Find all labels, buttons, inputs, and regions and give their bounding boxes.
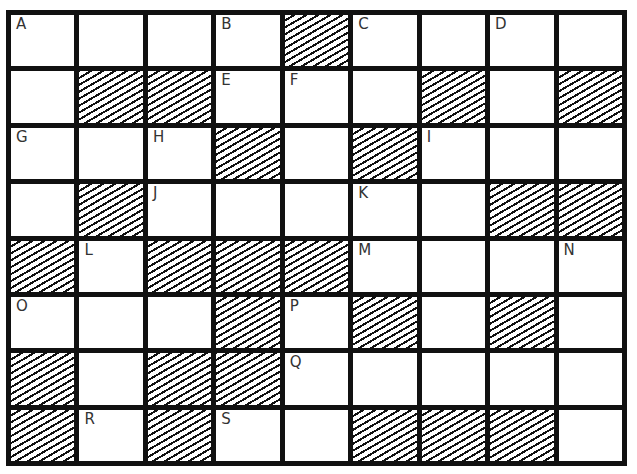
blocked-cell: [353, 128, 416, 179]
answer-cell[interactable]: J: [148, 184, 211, 235]
answer-cell[interactable]: S: [216, 410, 279, 461]
answer-cell[interactable]: [490, 128, 553, 179]
answer-cell[interactable]: M: [353, 241, 416, 292]
answer-cell[interactable]: R: [79, 410, 142, 461]
answer-cell[interactable]: C: [353, 15, 416, 66]
blocked-cell: [353, 297, 416, 348]
clue-label: G: [16, 130, 28, 145]
clue-label: P: [290, 299, 299, 314]
answer-cell[interactable]: [490, 241, 553, 292]
answer-cell[interactable]: [559, 15, 622, 66]
answer-cell[interactable]: [422, 241, 485, 292]
answer-cell[interactable]: K: [353, 184, 416, 235]
clue-label: K: [358, 186, 368, 201]
answer-cell[interactable]: [559, 410, 622, 461]
blocked-cell: [353, 410, 416, 461]
blocked-cell: [11, 410, 74, 461]
answer-cell[interactable]: [148, 15, 211, 66]
clue-label: B: [221, 17, 231, 32]
blocked-cell: [490, 184, 553, 235]
clue-label: A: [16, 17, 26, 32]
clue-label: R: [84, 412, 94, 427]
clue-label: I: [427, 130, 431, 145]
answer-cell[interactable]: [422, 353, 485, 404]
clue-label: S: [221, 412, 231, 427]
answer-cell[interactable]: [11, 184, 74, 235]
blocked-cell: [285, 15, 348, 66]
blocked-cell: [216, 353, 279, 404]
answer-cell[interactable]: [422, 297, 485, 348]
answer-cell[interactable]: B: [216, 15, 279, 66]
blocked-cell: [490, 297, 553, 348]
blocked-cell: [148, 353, 211, 404]
clue-label: L: [84, 243, 92, 258]
clue-label: H: [153, 130, 164, 145]
blocked-cell: [11, 353, 74, 404]
answer-cell[interactable]: [559, 297, 622, 348]
clue-label: O: [16, 299, 28, 314]
answer-cell[interactable]: [422, 15, 485, 66]
answer-cell[interactable]: N: [559, 241, 622, 292]
answer-cell[interactable]: [490, 71, 553, 122]
answer-cell[interactable]: L: [79, 241, 142, 292]
clue-label: Q: [290, 355, 302, 370]
blocked-cell: [490, 410, 553, 461]
clue-label: C: [358, 17, 368, 32]
answer-cell[interactable]: E: [216, 71, 279, 122]
answer-cell[interactable]: [216, 184, 279, 235]
answer-cell[interactable]: [559, 128, 622, 179]
answer-cell[interactable]: [79, 353, 142, 404]
answer-cell[interactable]: [353, 353, 416, 404]
blocked-cell: [216, 297, 279, 348]
answer-cell[interactable]: [79, 128, 142, 179]
answer-cell[interactable]: P: [285, 297, 348, 348]
answer-cell[interactable]: [79, 297, 142, 348]
answer-cell[interactable]: [285, 128, 348, 179]
answer-cell[interactable]: [285, 410, 348, 461]
answer-cell[interactable]: D: [490, 15, 553, 66]
blocked-cell: [216, 241, 279, 292]
answer-cell[interactable]: [422, 184, 485, 235]
blocked-cell: [216, 128, 279, 179]
clue-label: M: [358, 243, 371, 258]
answer-cell[interactable]: G: [11, 128, 74, 179]
answer-cell[interactable]: O: [11, 297, 74, 348]
blocked-cell: [285, 241, 348, 292]
clue-label: N: [564, 243, 575, 258]
answer-cell[interactable]: [148, 297, 211, 348]
answer-cell[interactable]: I: [422, 128, 485, 179]
clue-label: E: [221, 73, 230, 88]
blocked-cell: [148, 241, 211, 292]
blocked-cell: [148, 410, 211, 461]
blocked-cell: [79, 184, 142, 235]
blocked-cell: [148, 71, 211, 122]
answer-cell[interactable]: H: [148, 128, 211, 179]
crossword-grid: ABCDEFGHIJKLMNOPQRS: [6, 10, 627, 466]
answer-cell[interactable]: [79, 15, 142, 66]
answer-cell[interactable]: Q: [285, 353, 348, 404]
blocked-cell: [422, 410, 485, 461]
blocked-cell: [11, 241, 74, 292]
blocked-cell: [559, 184, 622, 235]
clue-label: J: [153, 186, 157, 201]
answer-cell[interactable]: [490, 353, 553, 404]
blocked-cell: [559, 71, 622, 122]
clue-label: D: [495, 17, 507, 32]
answer-cell[interactable]: [559, 353, 622, 404]
answer-cell[interactable]: F: [285, 71, 348, 122]
answer-cell[interactable]: [285, 184, 348, 235]
answer-cell[interactable]: [11, 71, 74, 122]
answer-cell[interactable]: A: [11, 15, 74, 66]
answer-cell[interactable]: [353, 71, 416, 122]
blocked-cell: [422, 71, 485, 122]
clue-label: F: [290, 73, 299, 88]
blocked-cell: [79, 71, 142, 122]
